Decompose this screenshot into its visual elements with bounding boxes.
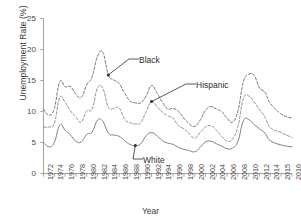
x-tick-label: 2016 [295,164,301,180]
y-tick-label: 0 [16,170,36,178]
x-tick-label: 2002 [209,164,216,180]
x-tick-label: 1982 [101,164,108,180]
x-tick-label: 1976 [68,164,75,180]
series-line-white [44,118,293,152]
x-tick-label: 1992 [155,164,162,180]
x-tick-label: 1986 [122,164,129,180]
x-tick-label: 2006 [230,164,237,180]
x-tick-label: 1974 [57,164,64,180]
x-tick-label: 1990 [144,164,151,180]
y-tick-label: 20 [16,46,36,54]
x-tick-label: 1972 [47,164,54,180]
series-line-black [44,51,293,127]
x-tick-label: 2004 [219,164,226,180]
x-tick-label: 1980 [90,164,97,180]
y-tick-label: 15 [16,77,36,85]
x-tick-label: 2010 [252,164,259,180]
annotation-label-black: Black [139,55,160,65]
x-tick-label: 1996 [176,164,183,180]
unemployment-rate-chart: Unemployment Rate (%) Year 0510152025 19… [0,0,301,223]
annotation-white [133,144,143,159]
x-tick-label: 1988 [133,164,140,180]
x-axis-title: Year [0,206,301,216]
x-tick-label: 2015 [284,164,291,180]
annotation-black [107,59,139,76]
annotation-label-white: White [143,155,165,165]
plot-area [0,0,301,223]
x-tick-label: 2000 [198,164,205,180]
x-tick-label: 2014 [273,164,280,180]
x-tick-label: 2012 [263,164,270,180]
y-tick-label: 25 [16,15,36,23]
x-tick-label: 1978 [79,164,86,180]
x-tick-label: 1998 [187,164,194,180]
y-tick-label: 10 [16,108,36,116]
x-tick-label: 2008 [241,164,248,180]
x-tick-label: 1984 [111,164,118,180]
y-tick-label: 5 [16,139,36,147]
annotation-label-hispanic: Hispanic [196,80,229,90]
x-tick-label: 1994 [165,164,172,180]
